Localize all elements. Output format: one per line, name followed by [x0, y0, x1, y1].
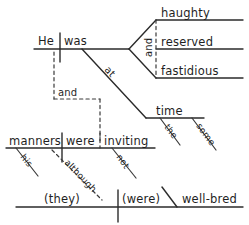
main-clause-group: He was — [34, 33, 129, 62]
word-and-connector: and — [58, 87, 77, 98]
word-well-bred: well-bred — [182, 192, 237, 206]
word-manners: manners — [9, 134, 61, 148]
preposition-slant-line — [82, 49, 146, 118]
sentence-diagram-image: He was and haughty reserved fastidious — [0, 0, 249, 225]
word-inviting: inviting — [104, 134, 148, 148]
third-clause-group: (they) (were) well-bred — [16, 187, 243, 222]
word-they: (they) — [44, 192, 80, 206]
word-at: at — [103, 64, 118, 79]
word-were: were — [66, 134, 95, 148]
word-haughty: haughty — [161, 6, 210, 20]
word-was: was — [64, 34, 87, 48]
word-reserved: reserved — [161, 35, 213, 49]
predicate-adjective-slant — [162, 187, 177, 207]
word-fastidious: fastidious — [161, 64, 219, 78]
word-the: the — [162, 122, 179, 141]
word-some: some — [194, 121, 217, 148]
word-and-compound: and — [143, 38, 154, 57]
word-time: time — [156, 104, 183, 118]
word-he: He — [38, 34, 54, 48]
word-were-parens: (were) — [122, 192, 160, 206]
word-although: although — [63, 157, 99, 194]
sentence-diagram-canvas: He was and haughty reserved fastidious — [0, 0, 249, 225]
clause-connector-group: and — [54, 52, 100, 141]
compound-complement-group: and haughty reserved fastidious — [129, 6, 243, 78]
